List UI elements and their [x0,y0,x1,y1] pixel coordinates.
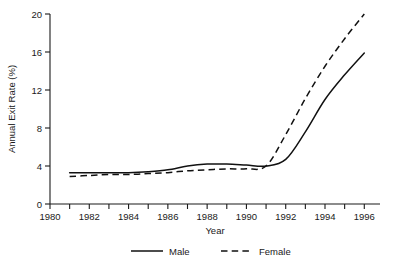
x-tick-label: 1984 [118,211,139,222]
x-axis-title: Year [205,225,224,236]
series-line-male [70,53,365,173]
x-tick-label: 1990 [236,211,257,222]
x-tick-label: 1996 [354,211,375,222]
x-tick-label: 1992 [275,211,296,222]
y-tick-label: 0 [37,199,42,210]
y-axis-ticks [45,14,50,204]
y-tick-label: 20 [31,9,42,20]
y-tick-label: 16 [31,47,42,58]
exit-rate-line-chart: 048121620 198019821984198619881990199219… [0,0,399,263]
x-tick-label: 1980 [39,211,60,222]
chart-legend: Male Female [131,246,291,257]
x-tick-label: 1994 [314,211,335,222]
series-line-female [70,14,365,176]
y-axis-tick-labels: 048121620 [31,9,42,210]
x-axis-major-ticks [50,204,364,209]
x-tick-label: 1982 [79,211,100,222]
legend-label-male: Male [169,246,190,257]
x-tick-label: 1988 [197,211,218,222]
y-tick-label: 8 [37,123,42,134]
legend-label-female: Female [259,246,291,257]
x-axis-tick-labels: 198019821984198619881990199219941996 [39,211,374,222]
y-tick-label: 12 [31,85,42,96]
x-tick-label: 1986 [157,211,178,222]
y-tick-label: 4 [37,161,42,172]
y-axis-title: Annual Exit Rate (%) [6,65,17,153]
